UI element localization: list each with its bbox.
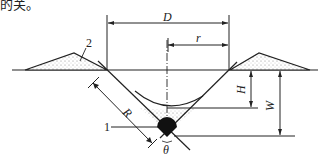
- h-arrow-bottom: [249, 101, 253, 107]
- label-d: D: [162, 10, 172, 24]
- callout-2-label: 2: [86, 36, 92, 50]
- d-arrow-right: [222, 21, 228, 25]
- label-r: r: [196, 31, 201, 45]
- crater-diagram: D r H W R 1 2 θ: [0, 0, 328, 166]
- w-arrow-top: [278, 71, 282, 77]
- h-arrow-top: [249, 71, 253, 77]
- callout-1-label: 1: [104, 120, 110, 134]
- d-arrow-left: [108, 21, 114, 25]
- r-arrow-left: [168, 43, 174, 47]
- label-w: W: [263, 100, 277, 111]
- left-soil-mound: [25, 53, 107, 70]
- label-h: H: [234, 84, 248, 95]
- label-theta: θ: [163, 143, 169, 157]
- right-soil-mound: [230, 53, 310, 70]
- w-arrow-bottom: [278, 129, 282, 135]
- r-arrow-right: [222, 43, 228, 47]
- crater-arc: [135, 91, 203, 106]
